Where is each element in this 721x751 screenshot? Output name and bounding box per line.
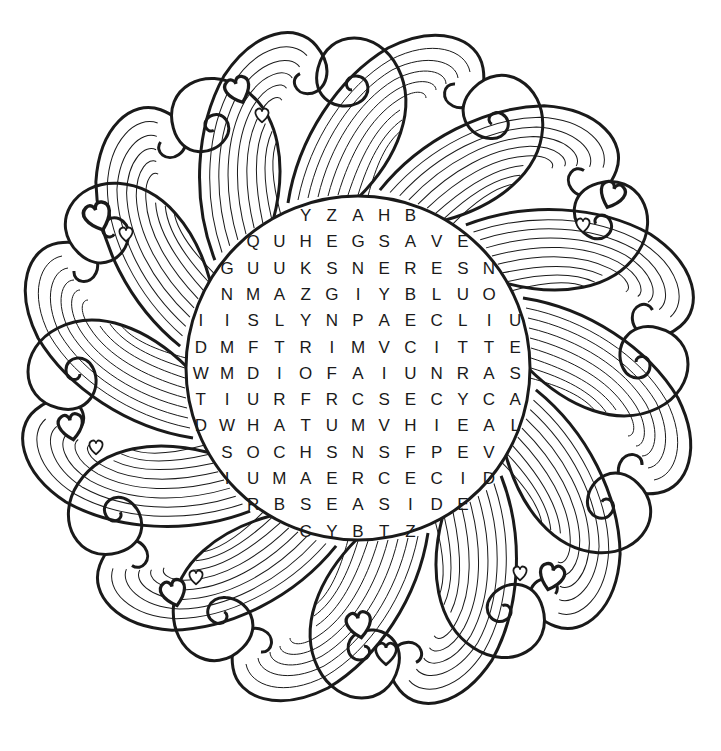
grid-letter[interactable]: A — [371, 310, 397, 332]
grid-letter[interactable]: M — [214, 363, 240, 385]
grid-letter[interactable]: E — [397, 310, 423, 332]
grid-letter[interactable]: M — [345, 337, 371, 359]
grid-letter[interactable]: V — [371, 415, 397, 437]
grid-letter[interactable]: F — [397, 442, 423, 464]
grid-letter[interactable]: U — [240, 468, 266, 490]
grid-letter[interactable]: N — [345, 442, 371, 464]
grid-letter[interactable]: G — [319, 284, 345, 306]
grid-letter[interactable]: N — [319, 310, 345, 332]
grid-letter[interactable]: P — [424, 442, 450, 464]
grid-letter[interactable]: E — [319, 231, 345, 253]
grid-letter[interactable]: S — [319, 442, 345, 464]
grid-letter[interactable]: W — [214, 415, 240, 437]
grid-letter[interactable]: F — [240, 337, 266, 359]
grid-letter[interactable]: O — [476, 284, 502, 306]
grid-letter[interactable]: A — [476, 363, 502, 385]
grid-letter[interactable]: H — [240, 415, 266, 437]
grid-letter[interactable]: B — [345, 521, 371, 543]
grid-letter[interactable]: T — [450, 337, 476, 359]
grid-letter[interactable]: E — [502, 337, 528, 359]
grid-letter[interactable]: E — [450, 231, 476, 253]
grid-letter[interactable]: B — [397, 205, 423, 227]
grid-letter[interactable]: S — [240, 310, 266, 332]
grid-letter[interactable]: V — [476, 442, 502, 464]
grid-letter[interactable]: S — [450, 258, 476, 280]
grid-letter[interactable]: F — [319, 363, 345, 385]
grid-letter[interactable]: Z — [319, 205, 345, 227]
grid-letter[interactable]: N — [424, 363, 450, 385]
grid-letter[interactable]: E — [450, 415, 476, 437]
grid-letter[interactable]: N — [345, 258, 371, 280]
grid-letter[interactable]: Q — [240, 231, 266, 253]
grid-letter[interactable]: D — [476, 468, 502, 490]
grid-letter[interactable]: M — [266, 468, 292, 490]
grid-letter[interactable]: G — [345, 231, 371, 253]
grid-letter[interactable]: U — [240, 258, 266, 280]
grid-letter[interactable]: C — [424, 389, 450, 411]
grid-letter[interactable]: F — [293, 389, 319, 411]
grid-letter[interactable]: C — [371, 468, 397, 490]
grid-letter[interactable]: C — [476, 389, 502, 411]
grid-letter[interactable]: I — [476, 310, 502, 332]
grid-letter[interactable]: T — [371, 521, 397, 543]
grid-letter[interactable]: U — [319, 415, 345, 437]
grid-letter[interactable]: S — [371, 231, 397, 253]
grid-letter[interactable]: U — [502, 310, 528, 332]
grid-letter[interactable]: S — [371, 442, 397, 464]
grid-letter[interactable]: A — [266, 415, 292, 437]
grid-letter[interactable]: A — [502, 389, 528, 411]
grid-letter[interactable]: I — [397, 494, 423, 516]
grid-letter[interactable]: A — [345, 494, 371, 516]
grid-letter[interactable]: H — [397, 415, 423, 437]
grid-letter[interactable]: A — [293, 468, 319, 490]
grid-letter[interactable]: L — [502, 415, 528, 437]
grid-letter[interactable]: D — [188, 337, 214, 359]
grid-letter[interactable]: A — [397, 231, 423, 253]
grid-letter[interactable]: I — [450, 468, 476, 490]
grid-letter[interactable]: C — [424, 310, 450, 332]
grid-letter[interactable]: M — [214, 337, 240, 359]
grid-letter[interactable]: L — [266, 310, 292, 332]
grid-letter[interactable]: I — [214, 389, 240, 411]
grid-letter[interactable]: A — [476, 415, 502, 437]
grid-letter[interactable]: Y — [319, 521, 345, 543]
grid-letter[interactable]: C — [397, 337, 423, 359]
grid-letter[interactable]: E — [424, 258, 450, 280]
grid-letter[interactable]: A — [266, 284, 292, 306]
grid-letter[interactable]: O — [240, 442, 266, 464]
grid-letter[interactable]: H — [371, 205, 397, 227]
grid-letter[interactable]: E — [450, 442, 476, 464]
grid-letter[interactable]: S — [371, 494, 397, 516]
grid-letter[interactable]: A — [345, 205, 371, 227]
grid-letter[interactable]: E — [450, 494, 476, 516]
grid-letter[interactable]: Z — [293, 284, 319, 306]
grid-letter[interactable]: C — [345, 389, 371, 411]
grid-letter[interactable]: R — [319, 389, 345, 411]
grid-letter[interactable]: Y — [371, 284, 397, 306]
grid-letter[interactable]: L — [424, 284, 450, 306]
grid-letter[interactable]: D — [188, 415, 214, 437]
grid-letter[interactable]: C — [424, 468, 450, 490]
grid-letter[interactable]: I — [214, 310, 240, 332]
grid-letter[interactable]: V — [424, 231, 450, 253]
grid-letter[interactable]: R — [397, 258, 423, 280]
grid-letter[interactable]: E — [319, 494, 345, 516]
grid-letter[interactable]: D — [240, 363, 266, 385]
grid-letter[interactable]: Y — [293, 205, 319, 227]
grid-letter[interactable]: N — [476, 258, 502, 280]
grid-letter[interactable]: I — [319, 337, 345, 359]
grid-letter[interactable]: R — [240, 494, 266, 516]
grid-letter[interactable]: P — [345, 310, 371, 332]
grid-letter[interactable]: B — [266, 494, 292, 516]
grid-letter[interactable]: I — [214, 468, 240, 490]
grid-letter[interactable]: L — [450, 310, 476, 332]
grid-letter[interactable]: C — [266, 442, 292, 464]
grid-letter[interactable]: S — [502, 363, 528, 385]
grid-letter[interactable]: S — [319, 258, 345, 280]
grid-letter[interactable]: I — [424, 415, 450, 437]
grid-letter[interactable]: S — [293, 494, 319, 516]
grid-letter[interactable]: U — [397, 363, 423, 385]
grid-letter[interactable]: M — [240, 284, 266, 306]
grid-letter[interactable]: H — [293, 231, 319, 253]
grid-letter[interactable]: I — [188, 310, 214, 332]
